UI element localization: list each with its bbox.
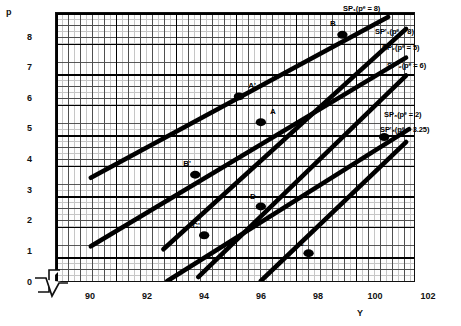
y-tick-6: 6	[8, 93, 32, 103]
curve-label-SP3prime: SP'₃(pᵉ = 3.25)	[380, 125, 429, 134]
curve-label-SP3: SP₃(pᵉ = 2)	[384, 110, 422, 119]
data-point-A	[256, 118, 266, 126]
data-point-B	[337, 31, 347, 39]
point-label-D: D	[250, 192, 256, 201]
data-point-C	[303, 249, 313, 257]
y-tick-0: 0	[8, 277, 32, 287]
data-point-unlabeled	[379, 133, 389, 141]
point-label-A: A	[270, 107, 276, 116]
y-tick-7: 7	[8, 62, 32, 72]
x-tick-102: 102	[408, 291, 448, 301]
chart-root: p Y 0 1 2 3 4 5 6 7 8 90 92 94 96 98 100…	[0, 0, 461, 326]
y-tick-4: 4	[8, 154, 32, 164]
curve-label-SP1prime: SP'₁(pᵉ = 8)	[375, 27, 414, 36]
x-tick-92: 92	[127, 291, 167, 301]
x-tick-100: 100	[355, 291, 395, 301]
point-label-C-prime: C'	[192, 221, 200, 230]
y-tick-3: 3	[8, 185, 32, 195]
data-point-C-prime	[199, 231, 209, 239]
plot-area: A' A B' B D C' C	[55, 12, 415, 282]
point-label-B: B	[330, 19, 336, 28]
point-label-C: C	[298, 239, 304, 248]
x-tick-96: 96	[241, 291, 281, 301]
y-tick-5: 5	[8, 123, 32, 133]
point-label-B-prime: B'	[183, 159, 191, 168]
y-tick-2: 2	[8, 215, 32, 225]
x-tick-90: 90	[70, 291, 110, 301]
data-point-A-prime	[234, 92, 244, 100]
x-tick-98: 98	[298, 291, 338, 301]
x-axis-break-icon	[34, 276, 68, 306]
data-point-B-prime	[190, 171, 200, 179]
x-tick-94: 94	[184, 291, 224, 301]
point-label-A-prime: A'	[248, 81, 256, 90]
data-point-D	[256, 203, 266, 211]
x-axis-label: Y	[357, 308, 363, 318]
y-tick-8: 8	[8, 32, 32, 42]
curve-label-SP2: SP₂(pᵉ = 5)	[382, 43, 419, 52]
x-axis-ticks: 90 92 94 96 98 100 102	[0, 291, 461, 305]
marker-layer	[56, 13, 414, 281]
y-axis-ticks: 0 1 2 3 4 5 6 7 8	[2, 0, 32, 326]
curve-label-SP2prime: SP'₂(pᵉ = 6)	[387, 61, 426, 70]
y-tick-1: 1	[8, 246, 32, 256]
curve-label-SP1: SP₁(pᵉ = 8)	[343, 4, 380, 13]
